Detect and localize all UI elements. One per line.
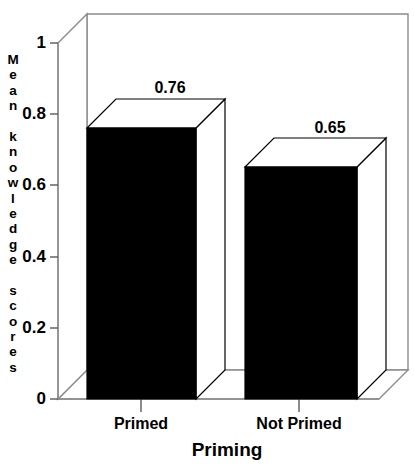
plot-left-wall [58, 14, 87, 399]
x-tick-label-not-primed: Not Primed [219, 416, 379, 432]
y-axis-title-glyph: c [2, 298, 24, 313]
y-axis-title-glyph: w [2, 175, 24, 190]
y-axis-title-glyph: e [2, 252, 24, 267]
chart-canvas [0, 0, 414, 464]
value-label-not-primed: 0.65 [295, 120, 365, 136]
y-axis-title: Mean knowledge scores [2, 52, 24, 375]
x-tick-label-primed: Primed [61, 416, 221, 432]
bar-not-primed[interactable] [245, 138, 386, 399]
y-tick-label-0: 0 [0, 390, 46, 407]
y-axis-title-glyph: M [2, 52, 24, 67]
y-axis-title-glyph: o [2, 314, 24, 329]
bar-not-primed-side [357, 138, 386, 399]
y-axis-title-glyph: r [2, 329, 24, 344]
y-axis-title-glyph: e [2, 344, 24, 359]
y-tick-label-1: 1 [0, 34, 46, 51]
y-axis-title-glyph: e [2, 206, 24, 221]
y-axis-title-glyph: s [2, 283, 24, 298]
bar-primed-front [87, 128, 196, 399]
y-axis-title-glyph: a [2, 83, 24, 98]
bar-not-primed-front [245, 167, 357, 399]
y-axis-ticks [50, 43, 58, 399]
y-axis-title-glyph: n [2, 98, 24, 113]
bar-primed-side [196, 99, 225, 399]
y-axis-title-glyph: d [2, 221, 24, 236]
y-axis-title-glyph [2, 114, 24, 129]
y-axis-title-glyph: e [2, 67, 24, 82]
bar-chart: 1 0.8 0.6 0.4 0.2 0 Mean knowledge score… [0, 0, 414, 464]
value-label-primed: 0.76 [135, 80, 205, 96]
bar-primed[interactable] [87, 99, 225, 399]
y-axis-title-glyph: o [2, 160, 24, 175]
y-axis-title-glyph: l [2, 191, 24, 206]
x-axis-ticks [141, 399, 299, 412]
y-axis-title-glyph: g [2, 237, 24, 252]
y-axis-title-glyph [2, 267, 24, 282]
y-axis-title-glyph: k [2, 129, 24, 144]
y-axis-title-glyph: n [2, 144, 24, 159]
y-axis-title-glyph: s [2, 360, 24, 375]
x-axis-title: Priming [127, 440, 327, 459]
